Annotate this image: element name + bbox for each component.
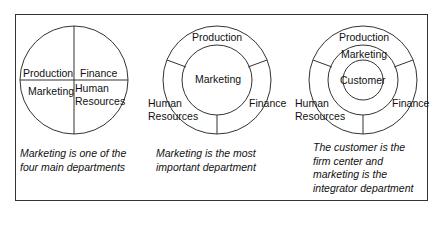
panel-2-divider-right: [248, 60, 267, 67]
panel-3-caption-line-4: integrator department: [313, 182, 413, 196]
panel-2-label-resources: Resources: [148, 110, 198, 122]
panel-3-label-marketing: Marketing: [341, 48, 387, 60]
panel-3-divider-right: [394, 60, 413, 67]
panel-3-caption-line-1: The customer is the: [313, 141, 413, 155]
panel-2-label-marketing: Marketing: [195, 73, 241, 85]
panel-2-caption: Marketing is the most important departme…: [156, 147, 256, 174]
panel-1-label-finance: Finance: [80, 67, 117, 79]
panel-1-label-marketing: Marketing: [28, 85, 74, 97]
panel-3-divider-left: [313, 60, 332, 67]
panel-2-caption-line-2: important department: [156, 161, 256, 175]
panel-2-divider-left: [167, 60, 186, 67]
panel-3-label-finance: Finance: [392, 97, 429, 109]
panel-1-label-production: Production: [23, 67, 73, 79]
panel-3-label-production: Production: [339, 31, 389, 43]
panel-2-label-finance: Finance: [249, 97, 286, 109]
panel-3-label-human: Human: [295, 97, 329, 109]
panel-3-caption-line-3: marketing is the: [313, 168, 413, 182]
panel-1-caption-line-1: Marketing is one of the: [20, 147, 126, 161]
panel-1-label-resources: Resources: [75, 95, 125, 107]
panel-2-label-production: Production: [192, 31, 242, 43]
panel-2-label-human: Human: [148, 97, 182, 109]
panel-3-caption: The customer is the firm center and mark…: [313, 141, 413, 195]
panel-3-label-customer: Customer: [340, 74, 386, 86]
panel-3-caption-line-2: firm center and: [313, 155, 413, 169]
panel-2-caption-line-1: Marketing is the most: [156, 147, 256, 161]
panel-1-caption-line-2: four main departments: [20, 161, 126, 175]
panel-1-caption: Marketing is one of the four main depart…: [20, 147, 126, 174]
panel-1-label-human: Human: [75, 82, 109, 94]
panel-3-label-resources: Resources: [295, 110, 345, 122]
